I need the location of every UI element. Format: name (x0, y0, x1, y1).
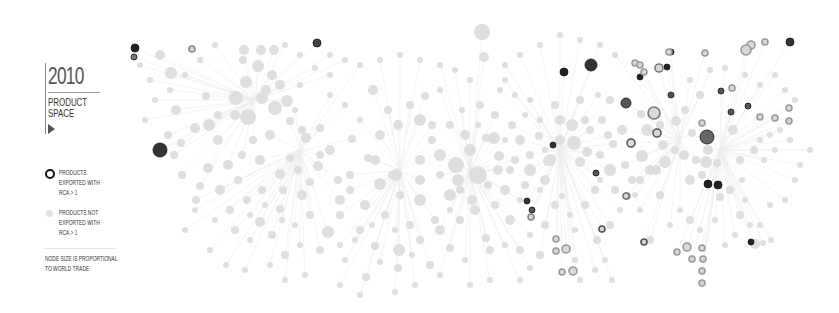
node-not-exported[interactable] (409, 252, 415, 258)
node-not-exported[interactable] (555, 115, 565, 125)
node-not-exported[interactable] (397, 52, 403, 58)
node-not-exported[interactable] (416, 236, 424, 244)
node-not-exported[interactable] (722, 242, 728, 248)
node-not-exported[interactable] (306, 178, 314, 186)
node-not-exported[interactable] (203, 163, 213, 173)
node-not-exported[interactable] (335, 195, 345, 205)
node-not-exported[interactable] (364, 154, 372, 162)
node-not-exported[interactable] (182, 72, 188, 78)
node-not-exported[interactable] (393, 120, 403, 130)
node-not-exported[interactable] (255, 155, 265, 165)
node-exported[interactable] (529, 207, 535, 213)
node-not-exported[interactable] (713, 159, 721, 167)
node-not-exported[interactable] (414, 194, 426, 206)
node-not-exported[interactable] (275, 80, 285, 90)
node-not-exported[interactable] (467, 282, 473, 288)
node-not-exported[interactable] (334, 176, 342, 184)
node-not-exported[interactable] (747, 222, 753, 228)
node-not-exported[interactable] (231, 226, 239, 234)
node-exported[interactable] (699, 245, 705, 251)
node-not-exported[interactable] (671, 146, 679, 154)
node-not-exported[interactable] (229, 91, 243, 105)
node-not-exported[interactable] (415, 155, 425, 165)
node-not-exported[interactable] (566, 119, 578, 131)
node-exported[interactable] (757, 114, 763, 120)
node-not-exported[interactable] (636, 176, 644, 184)
node-not-exported[interactable] (456, 216, 464, 224)
node-not-exported[interactable] (567, 212, 573, 218)
node-not-exported[interactable] (698, 171, 706, 179)
node-not-exported[interactable] (342, 257, 348, 263)
node-exported[interactable] (559, 269, 565, 275)
node-not-exported[interactable] (782, 197, 788, 203)
node-not-exported[interactable] (692, 156, 700, 164)
node-not-exported[interactable] (167, 87, 173, 93)
node-not-exported[interactable] (396, 191, 404, 199)
node-exported[interactable] (655, 64, 663, 72)
node-not-exported[interactable] (537, 117, 543, 123)
node-not-exported[interactable] (551, 101, 559, 109)
node-not-exported[interactable] (586, 126, 594, 134)
node-not-exported[interactable] (267, 70, 277, 80)
node-not-exported[interactable] (452, 67, 458, 73)
node-not-exported[interactable] (286, 154, 294, 162)
node-not-exported[interactable] (736, 211, 744, 219)
node-not-exported[interactable] (527, 232, 533, 238)
node-exported[interactable] (553, 236, 559, 242)
node-not-exported[interactable] (679, 150, 689, 160)
node-not-exported[interactable] (437, 272, 443, 278)
node-not-exported[interactable] (667, 222, 673, 228)
node-not-exported[interactable] (435, 225, 445, 235)
node-exported[interactable] (718, 88, 724, 94)
node-not-exported[interactable] (462, 257, 468, 263)
play-triangle-icon[interactable] (48, 124, 55, 134)
node-not-exported[interactable] (656, 191, 664, 199)
node-not-exported[interactable] (459, 107, 465, 113)
node-not-exported[interactable] (337, 282, 343, 288)
node-not-exported[interactable] (467, 77, 473, 83)
node-not-exported[interactable] (190, 123, 200, 133)
node-not-exported[interactable] (342, 57, 348, 63)
node-not-exported[interactable] (279, 217, 285, 223)
node-not-exported[interactable] (377, 259, 383, 265)
node-not-exported[interactable] (742, 72, 748, 78)
node-not-exported[interactable] (279, 186, 287, 194)
node-not-exported[interactable] (685, 175, 695, 185)
node-not-exported[interactable] (537, 42, 543, 48)
node-not-exported[interactable] (301, 133, 311, 143)
node-exported[interactable] (627, 139, 635, 147)
node-not-exported[interactable] (202, 92, 210, 100)
node-exported[interactable] (786, 105, 792, 111)
node-not-exported[interactable] (524, 164, 536, 176)
node-not-exported[interactable] (239, 56, 247, 64)
node-not-exported[interactable] (369, 222, 375, 228)
node-not-exported[interactable] (452, 174, 464, 186)
node-exported[interactable] (637, 62, 643, 68)
node-not-exported[interactable] (170, 151, 178, 159)
node-exported[interactable] (704, 180, 712, 188)
node-exported[interactable] (585, 59, 597, 71)
node-not-exported[interactable] (502, 137, 508, 143)
node-not-exported[interactable] (178, 171, 186, 179)
node-not-exported[interactable] (313, 161, 323, 171)
node-not-exported[interactable] (517, 197, 523, 203)
node-not-exported[interactable] (357, 117, 363, 123)
node-not-exported[interactable] (394, 264, 402, 272)
node-exported[interactable] (699, 280, 705, 286)
node-not-exported[interactable] (223, 160, 233, 170)
node-not-exported[interactable] (267, 262, 273, 268)
node-not-exported[interactable] (360, 200, 370, 210)
node-exported[interactable] (772, 115, 778, 121)
node-not-exported[interactable] (325, 145, 335, 155)
node-exported[interactable] (189, 46, 195, 52)
node-not-exported[interactable] (515, 135, 525, 145)
node-not-exported[interactable] (659, 156, 671, 168)
node-not-exported[interactable] (243, 196, 251, 204)
node-not-exported[interactable] (286, 117, 294, 125)
node-not-exported[interactable] (447, 207, 453, 213)
node-not-exported[interactable] (281, 95, 293, 107)
node-not-exported[interactable] (540, 175, 550, 185)
node-not-exported[interactable] (212, 217, 218, 223)
node-not-exported[interactable] (268, 101, 282, 115)
node-not-exported[interactable] (165, 67, 177, 79)
